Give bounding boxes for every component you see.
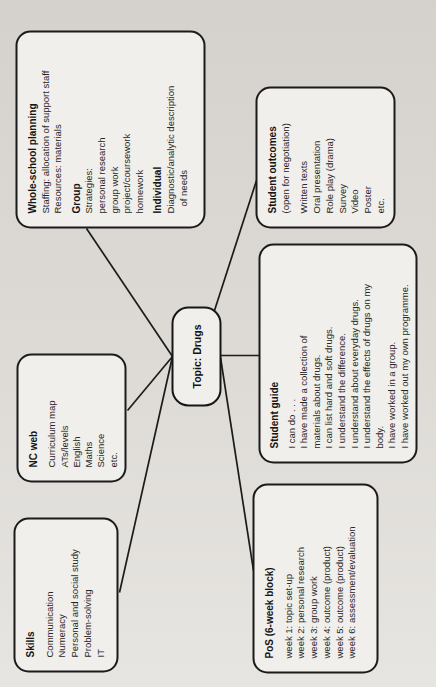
box-title: Student guide (268, 251, 281, 448)
connector-line-nc-web (127, 356, 172, 410)
list-item: week 1: topic set-up (282, 491, 295, 658)
box-title: Student outcomes (266, 94, 279, 213)
list-item: Communication (43, 525, 56, 657)
connector-line-whole-school-planning (86, 228, 172, 356)
list-item: of needs (177, 38, 190, 206)
list-item: I have made a collection of (297, 251, 310, 448)
list-item: Survey (336, 94, 349, 213)
spacer (64, 38, 70, 213)
list-item: I understand the difference. (335, 251, 348, 448)
pos-block-box: PoS (6-week block) week 1: topic set-up … (252, 483, 378, 673)
list-item: Oral presentation (310, 94, 323, 213)
list-item: project/coursework (120, 38, 133, 213)
list-item: Poster (361, 94, 374, 213)
list-item: etc. (107, 361, 119, 467)
list-item: Curriculum map (45, 361, 57, 467)
list-item: etc. (374, 94, 387, 213)
nc-web-box: NC web Curriculum map ATs/levels English… (16, 353, 126, 482)
spacer (37, 525, 43, 657)
spacer (276, 491, 282, 658)
spacer (281, 251, 285, 448)
individual-heading: Individual (151, 38, 164, 213)
box-title: Whole-school planning (26, 38, 39, 213)
list-item: body. (373, 251, 386, 448)
topic-node: Topic: Drugs (171, 306, 221, 406)
list-item: week 2: personal research (294, 491, 307, 658)
list-item: week 4: outcome (product) (320, 491, 333, 658)
list-item: Science (94, 361, 106, 467)
scanned-page: Skills Communication Numeracy Personal a… (0, 0, 436, 687)
list-item: Numeracy (55, 525, 68, 657)
staffing-line: Staffing: allocation of support staff (39, 38, 52, 213)
group-heading: Group (70, 38, 83, 213)
list-item: English (70, 361, 82, 467)
list-item: I have worked in a group. (385, 251, 398, 448)
spacer (145, 38, 151, 213)
list-item: I can list hard and soft drugs. (322, 251, 335, 448)
list-item: week 5: outcome (product) (333, 491, 346, 658)
resources-line: Resources: materials (51, 38, 64, 213)
list-item: Diagnostic/analytic description (164, 38, 177, 213)
list-item: IT (94, 525, 107, 657)
box-title: PoS (6-week block) (263, 491, 276, 658)
box-title: Skills (24, 525, 37, 657)
list-item: Role play (drama) (323, 94, 336, 213)
list-item: I can do . . . (285, 251, 298, 448)
list-item: Video (348, 94, 361, 213)
student-guide-box: Student guide I can do . . . I have made… (258, 243, 417, 463)
list-item: homework (133, 38, 146, 213)
list-item: materials about drugs. (310, 251, 323, 448)
connector-line-skills (119, 356, 172, 592)
list-item: Personal and social study (68, 525, 81, 657)
topic-label: Topic: Drugs (190, 324, 202, 388)
list-item: I have worked out my own programme. (398, 251, 411, 448)
student-outcomes-box: Student outcomes (open for negotiation) … (255, 86, 395, 228)
list-item: Strategies: (82, 38, 95, 213)
skills-box: Skills Communication Numeracy Personal a… (13, 517, 118, 672)
connector-line-pos-block (220, 357, 253, 570)
list-item: Written texts (297, 94, 310, 213)
box-title: NC web (27, 361, 39, 467)
list-item: Maths (82, 361, 94, 467)
list-item: ATs/levels (58, 361, 70, 467)
list-item: week 6: assessment/evaluation (345, 491, 358, 658)
box-subtitle: (open for negotiation) (279, 94, 292, 213)
list-item: Problem-solving (81, 525, 94, 657)
list-item: I understand the effects of drugs on my (360, 251, 373, 448)
whole-school-planning-box: Whole-school planning Staffing: allocati… (15, 30, 205, 228)
concept-map-stage: Skills Communication Numeracy Personal a… (0, 0, 436, 687)
list-item: group work (108, 38, 121, 213)
list-item: personal research (95, 38, 108, 213)
spacer (291, 94, 297, 213)
spacer (39, 361, 45, 467)
list-item: week 3: group work (307, 491, 320, 658)
connector-line-student-outcomes (214, 180, 256, 310)
list-item: I understand about everyday drugs. (348, 251, 361, 448)
